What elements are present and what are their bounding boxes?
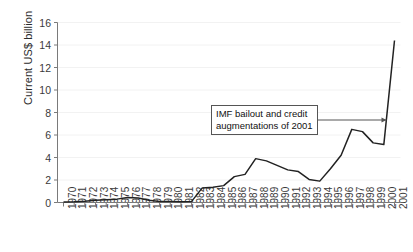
plot-area: [0, 0, 413, 252]
annotation-callout: IMF bailout and credit augmentations of …: [211, 105, 318, 135]
annotation-line-2: augmentations of 2001: [216, 120, 313, 132]
annotation-line-1: IMF bailout and credit: [216, 108, 313, 120]
chart-container: Current US$ billion 0246810121416 197019…: [0, 0, 413, 252]
